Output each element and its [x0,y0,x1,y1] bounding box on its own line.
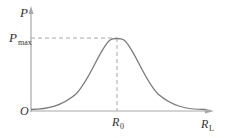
svg-text:R: R [200,117,209,131]
x-axis-label: R L [200,117,214,133]
svg-text:0: 0 [120,122,124,131]
r0-label: R 0 [111,115,124,131]
svg-text:max: max [18,38,32,47]
x-axis [31,109,214,114]
y-axis-label: P [19,5,28,20]
svg-text:L: L [209,124,214,133]
power-curve-diagram: P P max O R 0 R L [0,0,229,138]
origin-label: O [20,104,29,118]
y-axis-arrow-icon [29,6,34,14]
y-axis [29,6,34,112]
x-axis-arrow-icon [205,109,214,114]
svg-text:R: R [111,115,120,129]
power-curve [31,39,205,110]
svg-text:P: P [8,30,17,45]
pmax-label: P max [8,30,32,47]
